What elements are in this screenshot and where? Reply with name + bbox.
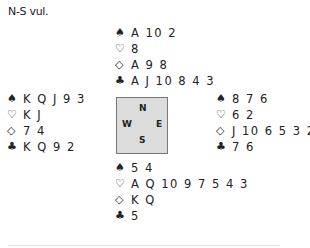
east-hearts: ♡6 2 xyxy=(216,107,310,123)
diamond-icon: ◇ xyxy=(7,123,23,139)
north-spades: ♠A 10 2 xyxy=(115,25,215,41)
spade-icon: ♠ xyxy=(7,91,23,107)
heart-icon: ♡ xyxy=(115,41,131,57)
vulnerability-label: N-S vul. xyxy=(8,5,48,18)
club-icon: ♣ xyxy=(7,139,23,155)
club-icon: ♣ xyxy=(115,208,131,224)
west-spades: ♠K Q J 9 3 xyxy=(7,91,86,107)
south-hand: ♠5 4 ♡A Q 10 9 7 5 4 3 ◇K Q ♣5 xyxy=(115,160,249,224)
north-hearts: ♡8 xyxy=(115,41,215,57)
compass-box: N W E S xyxy=(116,97,168,154)
heart-icon: ♡ xyxy=(115,176,131,192)
west-hearts: ♡K J xyxy=(7,107,86,123)
club-icon: ♣ xyxy=(115,73,131,89)
heart-icon: ♡ xyxy=(7,107,23,123)
east-diamonds: ◇J 10 6 5 3 2 xyxy=(216,123,310,139)
north-hand: ♠A 10 2 ♡8 ◇A 9 8 ♣A J 10 8 4 3 xyxy=(115,25,215,89)
north-clubs: ♣A J 10 8 4 3 xyxy=(115,73,215,89)
north-diamonds: ◇A 9 8 xyxy=(115,57,215,73)
diamond-icon: ◇ xyxy=(115,57,131,73)
compass-south: S xyxy=(139,135,145,145)
spade-icon: ♠ xyxy=(115,160,131,176)
south-diamonds: ◇K Q xyxy=(115,192,249,208)
diamond-icon: ◇ xyxy=(216,123,232,139)
east-clubs: ♣7 6 xyxy=(216,139,310,155)
divider xyxy=(8,245,280,246)
south-hearts: ♡A Q 10 9 7 5 4 3 xyxy=(115,176,249,192)
west-clubs: ♣K Q 9 2 xyxy=(7,139,86,155)
spade-icon: ♠ xyxy=(216,91,232,107)
spade-icon: ♠ xyxy=(115,25,131,41)
east-spades: ♠8 7 6 xyxy=(216,91,310,107)
compass-north: N xyxy=(139,103,147,113)
west-hand: ♠K Q J 9 3 ♡K J ◇7 4 ♣K Q 9 2 xyxy=(7,91,86,155)
heart-icon: ♡ xyxy=(216,107,232,123)
diamond-icon: ◇ xyxy=(115,192,131,208)
south-clubs: ♣5 xyxy=(115,208,249,224)
south-spades: ♠5 4 xyxy=(115,160,249,176)
compass-east: E xyxy=(156,119,162,129)
east-hand: ♠8 7 6 ♡6 2 ◇J 10 6 5 3 2 ♣7 6 xyxy=(216,91,310,155)
compass-west: W xyxy=(122,119,132,129)
club-icon: ♣ xyxy=(216,139,232,155)
west-diamonds: ◇7 4 xyxy=(7,123,86,139)
